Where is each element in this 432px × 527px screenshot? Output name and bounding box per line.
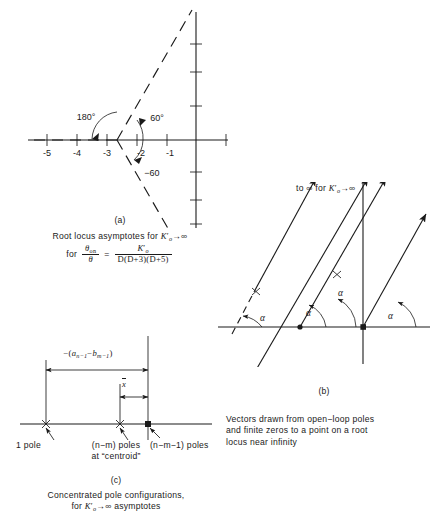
panel-c-caption-line2: for K′o→∞ asymptotes bbox=[16, 501, 216, 514]
axis-label-a-4: -1 bbox=[166, 148, 174, 158]
panel-a-for-word: for bbox=[66, 249, 77, 260]
panel-b-plot: α α α α bbox=[216, 182, 432, 367]
panel-b-caption-line1: Vectors drawn from open−loop poles bbox=[226, 414, 432, 425]
figure-root: -5 -4 -3 -2 -1 180° 60° −60 (a) Root loc… bbox=[0, 0, 432, 527]
theta-ratio: θon θ bbox=[82, 244, 99, 264]
panel-a-caption: Root locus asymptotes for K′o→∞ for θon … bbox=[20, 231, 220, 264]
leader-left bbox=[46, 428, 54, 440]
panel-c-for-word: for bbox=[71, 501, 82, 511]
leader-right bbox=[150, 428, 160, 438]
panel-c-k-tail: →∞ asymptotes bbox=[96, 501, 160, 511]
dim-a-symbol: an−1 bbox=[72, 348, 88, 358]
vector-2 bbox=[256, 182, 368, 367]
axis-label-a-1: -4 bbox=[73, 148, 81, 158]
panel-c-letter: (c) bbox=[56, 475, 176, 485]
alpha-label-4: α bbox=[388, 311, 394, 321]
angle-label-minus60: −60 bbox=[144, 168, 159, 178]
panel-c-plot bbox=[20, 312, 220, 442]
panel-c-caption: Concentrated pole configurations, for K′… bbox=[16, 490, 216, 515]
panel-a-k-tail: →∞ bbox=[172, 231, 187, 241]
axis-label-a-0: -5 bbox=[43, 148, 51, 158]
dim-minus-paren: −( bbox=[63, 348, 71, 358]
panel-b-caption-line3: locus near infinity bbox=[226, 437, 432, 448]
angle-arrow-60 bbox=[139, 118, 146, 126]
panel-b-letter: (b) bbox=[264, 386, 384, 396]
panel-c-label-right: (n−m−1) poles bbox=[150, 440, 240, 451]
alpha-label-3: α bbox=[338, 288, 344, 298]
alpha-arc-2 bbox=[309, 305, 326, 327]
panel-a-caption-text: Root locus asymptotes for bbox=[53, 231, 159, 241]
angle-arrow-minus60 bbox=[134, 157, 142, 164]
vector-1-solid bbox=[254, 182, 316, 292]
vector-1-dashed bbox=[232, 292, 254, 334]
panel-b-caption-line2: and finite zeros to a point on a root bbox=[226, 425, 432, 436]
dim-close-paren: ) bbox=[109, 348, 112, 358]
zero-marker-dot bbox=[297, 324, 302, 329]
panel-b-k-tail: →∞ bbox=[340, 183, 355, 193]
panel-c-xbar-label: x bbox=[104, 378, 144, 390]
transfer-function-fraction: K′o D(D+3)(D+5) bbox=[115, 244, 172, 264]
angle-label-180: 180° bbox=[77, 112, 96, 122]
alpha-label-1: α bbox=[260, 313, 266, 323]
equals-sign: = bbox=[104, 249, 109, 260]
dim-b-symbol: bm−1 bbox=[92, 348, 109, 358]
angle-arc-180 bbox=[92, 112, 117, 139]
angle-label-60: 60° bbox=[150, 113, 164, 123]
panel-a-letter: (a) bbox=[60, 215, 180, 225]
xbar-symbol: x bbox=[122, 378, 126, 390]
axis-label-a-2: -3 bbox=[103, 148, 111, 158]
axis-label-a-3: -2 bbox=[137, 148, 145, 158]
panel-a-plot: -5 -4 -3 -2 -1 180° 60° −60 bbox=[0, 0, 232, 230]
panel-b-caption: Vectors drawn from open−loop poles and f… bbox=[216, 414, 432, 448]
pole-marker-origin bbox=[360, 324, 366, 330]
vector-4 bbox=[363, 214, 426, 327]
alpha-arc-3 bbox=[338, 299, 356, 327]
pole-marker-3 bbox=[333, 271, 341, 278]
panel-a-caption-line2: for θon θ = K′o D(D+3)(D+5) bbox=[20, 244, 220, 264]
panel-c-label-mid: (n−m) poles at “centroid” bbox=[78, 440, 154, 463]
panel-c-k-symbol: K′o bbox=[85, 501, 96, 511]
panel-a-k-symbol: K′o bbox=[161, 231, 172, 241]
panel-c-label-left: 1 pole bbox=[16, 440, 76, 451]
panel-c-label-mid-line2: at “centroid” bbox=[78, 451, 154, 462]
panel-c-caption-line1: Concentrated pole configurations, bbox=[16, 490, 216, 501]
panel-b-k-symbol: K′o bbox=[329, 183, 340, 193]
vector-3 bbox=[300, 182, 386, 327]
panel-c-dimension-label: −(an−1−bm−1) bbox=[28, 348, 148, 361]
panel-b-top-prefix: to ∞ for bbox=[296, 183, 326, 193]
alpha-label-2: α bbox=[306, 308, 312, 318]
pole-marker-origin-c bbox=[145, 421, 151, 427]
panel-b-top-label: to ∞ for K′o→∞ bbox=[296, 183, 426, 196]
alpha-arc-4 bbox=[398, 302, 416, 327]
leader-mid bbox=[120, 428, 128, 440]
panel-a-caption-line1: Root locus asymptotes for K′o→∞ bbox=[20, 231, 220, 244]
panel-c-label-mid-line1: (n−m) poles bbox=[78, 440, 154, 451]
